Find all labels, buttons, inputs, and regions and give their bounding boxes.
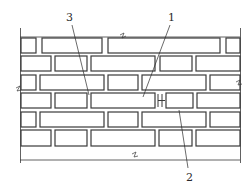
joint-detail bbox=[158, 94, 165, 107]
callout-label-3: 3 bbox=[66, 12, 73, 23]
brick-wall-diagram bbox=[0, 0, 252, 191]
brick-courses bbox=[21, 38, 240, 146]
callout-label-2: 2 bbox=[186, 172, 193, 183]
callout-label-1: 1 bbox=[168, 12, 175, 23]
